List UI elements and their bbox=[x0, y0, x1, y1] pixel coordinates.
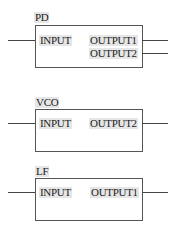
output-wire bbox=[142, 192, 168, 193]
output-port-label: OUTPUT1 bbox=[90, 187, 139, 198]
output-port-label: OUTPUT2 bbox=[89, 118, 138, 129]
input-port-label: INPUT bbox=[39, 35, 72, 46]
input-port-label: INPUT bbox=[39, 118, 72, 129]
output-port-label: OUTPUT2 bbox=[89, 48, 138, 59]
output-port-label: OUTPUT1 bbox=[89, 35, 138, 46]
input-wire bbox=[8, 123, 35, 124]
output-wire bbox=[142, 40, 168, 41]
input-port-label: INPUT bbox=[39, 187, 72, 198]
input-wire bbox=[8, 40, 35, 41]
output-wire bbox=[142, 123, 168, 124]
input-wire bbox=[8, 192, 35, 193]
output-wire bbox=[142, 53, 168, 54]
block-title: VCO bbox=[35, 97, 59, 108]
block-box bbox=[35, 178, 143, 221]
block-box bbox=[35, 109, 143, 152]
block-title: PD bbox=[34, 12, 49, 23]
block-title: LF bbox=[35, 166, 49, 177]
